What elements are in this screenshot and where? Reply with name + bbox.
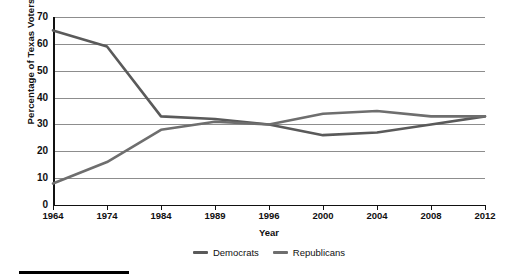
- x-tick-label: 2000: [293, 210, 353, 221]
- legend-label: Republicans: [293, 247, 345, 258]
- y-tick-label: 30: [22, 119, 48, 129]
- y-tick-label: 20: [22, 146, 48, 156]
- series-lines: [53, 17, 485, 205]
- series-line-republicans: [53, 111, 485, 184]
- plot-area: [53, 17, 485, 205]
- line-chart-figure: Percentage of Texas Voters 0102030405060…: [0, 0, 505, 280]
- y-tick-label: 70: [22, 12, 48, 22]
- legend-item-democrats[interactable]: Democrats: [193, 247, 259, 258]
- y-tick-label: 60: [22, 39, 48, 49]
- x-tick-label: 2004: [347, 210, 407, 221]
- x-tick-label: 1996: [239, 210, 299, 221]
- x-tick-label: 1984: [131, 210, 191, 221]
- x-tick-label: 2008: [401, 210, 461, 221]
- x-axis-title: Year: [53, 227, 485, 238]
- legend-swatch-icon: [193, 251, 208, 254]
- y-tick-label: 50: [22, 66, 48, 76]
- chart-legend: DemocratsRepublicans: [53, 247, 485, 258]
- x-tick-label: 1974: [77, 210, 137, 221]
- bottom-rule-decoration: [19, 271, 129, 274]
- series-line-democrats: [53, 30, 485, 135]
- x-axis-tick-labels: 196419741984198919962000200420082012: [53, 210, 485, 226]
- legend-item-republicans[interactable]: Republicans: [273, 247, 345, 258]
- legend-label: Democrats: [213, 247, 259, 258]
- y-tick-label: 0: [22, 200, 48, 210]
- x-tick-label: 1989: [185, 210, 245, 221]
- y-axis-tick-labels: 010203040506070: [20, 17, 48, 205]
- x-tick-label: 2012: [455, 210, 505, 221]
- legend-swatch-icon: [273, 251, 288, 254]
- y-tick-label: 10: [22, 173, 48, 183]
- x-tick-label: 1964: [23, 210, 83, 221]
- y-tick-label: 40: [22, 93, 48, 103]
